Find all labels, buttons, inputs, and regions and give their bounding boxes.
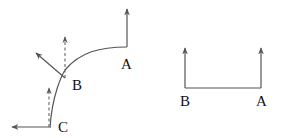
label-b-right: B xyxy=(180,93,190,109)
label-b-left: B xyxy=(72,77,82,93)
label-a-right: A xyxy=(256,93,267,109)
curve-path xyxy=(50,47,127,128)
right-figure: B A xyxy=(180,48,267,109)
diagram-canvas: A B C B A xyxy=(0,0,281,138)
vector-b-tangent xyxy=(36,53,65,78)
left-figure: A B C xyxy=(12,9,132,135)
label-a-left: A xyxy=(121,56,132,72)
label-c-left: C xyxy=(58,119,68,135)
